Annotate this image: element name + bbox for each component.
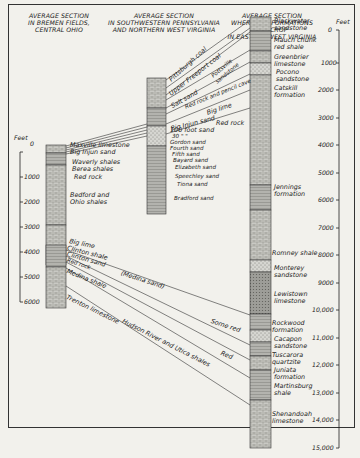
label-shenandoah: Shenandoahlimestone bbox=[272, 411, 312, 425]
label-line: Romney shale bbox=[272, 250, 317, 257]
label-rockwood: Rockwoodformation bbox=[272, 320, 305, 334]
label-juniata: Juniataformation bbox=[274, 367, 305, 381]
label-monterey: Montereysandstone bbox=[274, 265, 307, 279]
left-scale-tick: 2000 bbox=[24, 198, 40, 205]
label-line: red shale bbox=[274, 44, 316, 51]
right-scale-tick: 12,000 bbox=[312, 361, 334, 368]
label-bayard-sand: Bayard sand bbox=[173, 157, 208, 164]
label-pocono: Poconosandstone bbox=[276, 69, 309, 83]
right-scale-tick: 1000 bbox=[321, 59, 337, 66]
label-line: formation bbox=[274, 92, 305, 99]
label-line: formation bbox=[274, 191, 305, 198]
penn-column bbox=[147, 78, 166, 214]
right-depth-scale bbox=[336, 30, 339, 448]
label-lewistown: Lewistownlimestone bbox=[274, 291, 308, 305]
label-elizabeth-sand: Elizabeth sand bbox=[175, 164, 216, 171]
label-speechley-sand: Speechley sand bbox=[175, 173, 219, 180]
label-romney: Romney shale bbox=[272, 250, 317, 257]
label-mauch-chunk: Mauch chunkred shale bbox=[274, 37, 316, 51]
label-line: quartzite bbox=[272, 359, 303, 366]
label-ohio-shales: Ohio shales bbox=[70, 199, 107, 206]
right-scale-tick: 6000 bbox=[318, 196, 334, 203]
label-line: limestone bbox=[272, 418, 312, 425]
label-tuscarora: Tuscaroraquartzite bbox=[272, 352, 303, 366]
label-blackwater: Blackwatersandstone bbox=[274, 18, 310, 32]
label-red-rock-penn: Red rock bbox=[216, 120, 244, 127]
label-line: limestone bbox=[274, 298, 308, 305]
right-scale-tick: 7000 bbox=[318, 224, 334, 231]
label-berea: Berea shales bbox=[72, 166, 113, 173]
left-scale-tick: 0 bbox=[30, 140, 34, 147]
left-scale-unit: Feet bbox=[14, 134, 28, 141]
right-scale-tick: 4000 bbox=[318, 141, 334, 148]
right-scale-tick: 10,000 bbox=[312, 306, 334, 313]
label-jennings: Jenningsformation bbox=[274, 184, 305, 198]
right-scale-tick: 11,000 bbox=[312, 334, 334, 341]
label-line: sandstone bbox=[276, 76, 309, 83]
left-scale-tick: 4000 bbox=[24, 248, 40, 255]
left-scale-tick: 6000 bbox=[24, 298, 40, 305]
label-line: sandstone bbox=[274, 272, 307, 279]
label-big-injun: Big Injun sand bbox=[70, 149, 115, 156]
label-red-rock: Red rock bbox=[74, 174, 102, 181]
label-line: formation bbox=[274, 374, 305, 381]
label-line: limestone bbox=[274, 61, 309, 68]
label-cacapon: Cacaponsandstone bbox=[274, 336, 307, 350]
right-scale-tick: 0 bbox=[328, 26, 332, 33]
right-scale-tick: 3000 bbox=[318, 114, 334, 121]
right-scale-tick: 8000 bbox=[318, 251, 334, 258]
right-scale-tick: 9000 bbox=[318, 279, 334, 286]
wv-column bbox=[250, 17, 271, 448]
left-depth-scale bbox=[20, 152, 23, 302]
right-scale-tick: 15,000 bbox=[312, 444, 334, 451]
right-scale-tick: 14,000 bbox=[312, 416, 334, 423]
label-bradford-sand: Bradford sand bbox=[174, 195, 214, 202]
left-scale-tick: 5000 bbox=[24, 273, 40, 280]
label-line: shale bbox=[274, 390, 313, 397]
label-greenbrier: Greenbrierlimestone bbox=[274, 54, 309, 68]
ohio-column bbox=[46, 145, 66, 308]
label-martinsburg: Martinsburgshale bbox=[274, 383, 313, 397]
right-scale-unit: Feet bbox=[336, 18, 350, 25]
right-scale-tick: 5000 bbox=[318, 169, 334, 176]
right-scale-tick: 2000 bbox=[318, 86, 334, 93]
label-catskill: Catskillformation bbox=[274, 85, 305, 99]
right-scale-tick: 13,000 bbox=[312, 389, 334, 396]
label-tiona-sand: Tiona sand bbox=[177, 181, 208, 188]
label-line: sandstone bbox=[274, 25, 310, 32]
label-line: formation bbox=[272, 327, 305, 334]
left-scale-tick: 1000 bbox=[24, 173, 40, 180]
left-scale-tick: 3000 bbox=[24, 223, 40, 230]
label-line: sandstone bbox=[274, 343, 307, 350]
